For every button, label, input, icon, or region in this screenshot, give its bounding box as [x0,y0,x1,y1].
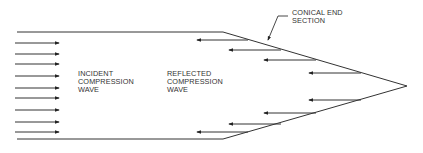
conical-end-section-label: CONICAL END SECTION [292,9,343,25]
reflected-wave-label: REFLECTED COMPRESSION WAVE [167,70,223,94]
conical-tube-diagram: INCIDENT COMPRESSION WAVE REFLECTED COMP… [0,0,423,153]
conical-leader-line [268,16,288,40]
incident-wave-arrows [15,43,59,132]
incident-wave-label: INCIDENT COMPRESSION WAVE [78,70,134,94]
cone-upper-edge [223,32,407,86]
